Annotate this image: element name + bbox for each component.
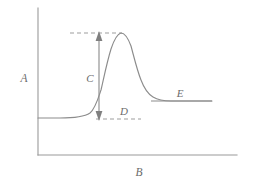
figure-root: A B C D E [0,0,253,186]
annotation-c-arrow [96,31,103,121]
annotation-e-label: E [176,87,184,99]
x-axis-label: B [135,166,142,178]
y-axis-label: A [19,72,28,84]
annotation-c-label: C [86,72,94,84]
peak-curve-chart: A B C D E [0,0,253,186]
annotation-d-label: D [119,105,128,117]
